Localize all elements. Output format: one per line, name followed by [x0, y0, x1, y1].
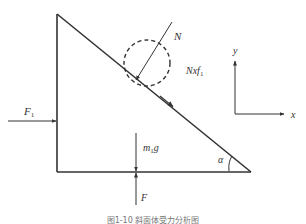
coordinate-axes: y x	[232, 45, 296, 120]
friction-force-label: Nxf1	[185, 65, 204, 78]
applied-force-label: F1	[23, 105, 35, 119]
x-axis-label: x	[290, 109, 296, 120]
friction-arrow	[160, 96, 173, 107]
weight-label: m1g	[143, 142, 159, 155]
figure-caption: 图1-10 斜面体受力分析图	[107, 215, 200, 224]
normal-force-label: N	[173, 30, 182, 42]
support-force-label: F	[140, 192, 148, 203]
normal-force-arrow	[136, 22, 172, 80]
angle-label: α	[218, 154, 224, 165]
y-axis-label: y	[232, 45, 238, 56]
force-diagram: N Nxf1 F1 m1g F α y x 图1-10 斜面体受力分析图	[0, 0, 306, 224]
angle-arc	[229, 156, 232, 171]
